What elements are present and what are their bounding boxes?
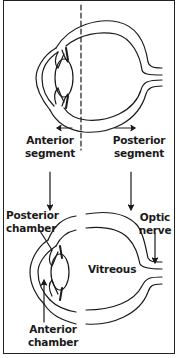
label-line: Posterior <box>110 134 168 147</box>
label-line: chamber <box>6 222 60 235</box>
label-line: Anterior <box>23 134 77 147</box>
posterior-segment-label: Posterior segment <box>110 134 168 160</box>
label-line: Anterior <box>28 323 78 336</box>
label-line: Optic <box>136 211 174 224</box>
vitreous-label: Vitreous <box>88 263 134 276</box>
posterior-chamber-label: Posterior chamber <box>6 209 60 235</box>
optic-nerve-label: Optic nerve <box>136 211 174 237</box>
eye-diagram <box>0 0 180 358</box>
label-line: nerve <box>136 224 174 237</box>
label-line: chamber <box>28 336 78 349</box>
label-line: segment <box>23 147 77 160</box>
anterior-segment-label: Anterior segment <box>23 134 77 160</box>
label-line: Posterior <box>6 209 60 222</box>
label-line: segment <box>110 147 168 160</box>
anterior-chamber-label: Anterior chamber <box>28 323 78 349</box>
whole-eye-illustration <box>36 21 162 132</box>
